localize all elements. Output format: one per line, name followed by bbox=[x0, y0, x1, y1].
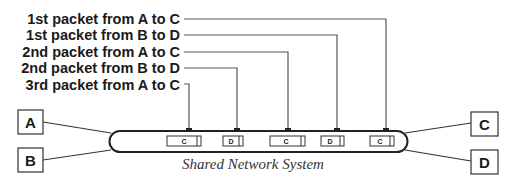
svg-text:C: C bbox=[181, 138, 186, 145]
label-3rd-a-to-c: 3rd packet from A to C bbox=[26, 77, 181, 93]
svg-text:C: C bbox=[283, 138, 288, 145]
shared-network-tube bbox=[110, 131, 408, 152]
node-d: D bbox=[471, 150, 498, 174]
leader-line-1st-b-to-d bbox=[184, 35, 337, 132]
leader-lines bbox=[184, 19, 386, 132]
svg-text:D: D bbox=[228, 138, 233, 145]
connector-a bbox=[43, 122, 111, 133]
packet-c-3: C bbox=[370, 136, 394, 146]
svg-text:C: C bbox=[479, 116, 490, 133]
svg-text:A: A bbox=[25, 114, 36, 131]
leader-line-2nd-a-to-c bbox=[184, 52, 288, 132]
svg-text:D: D bbox=[479, 154, 490, 171]
connector-c bbox=[405, 123, 471, 133]
packet-d-1: D bbox=[223, 136, 243, 146]
caption: Shared Network System bbox=[182, 156, 324, 172]
packet-c-1: C bbox=[167, 136, 201, 146]
node-c: C bbox=[471, 112, 498, 136]
connector-b bbox=[43, 150, 111, 160]
packet-d-2: D bbox=[321, 136, 344, 146]
label-1st-a-to-c: 1st packet from A to C bbox=[27, 11, 180, 27]
svg-text:C: C bbox=[377, 138, 382, 145]
shared-network-diagram: 1st packet from A to C 1st packet from B… bbox=[0, 0, 515, 186]
packet-c-2: C bbox=[270, 136, 305, 146]
label-1st-b-to-d: 1st packet from B to D bbox=[26, 27, 180, 43]
leader-line-3rd-a-to-c bbox=[184, 84, 189, 132]
label-2nd-b-to-d: 2nd packet from B to D bbox=[21, 60, 180, 76]
node-a: A bbox=[18, 110, 43, 134]
svg-text:B: B bbox=[25, 152, 36, 169]
leader-line-2nd-b-to-d bbox=[184, 68, 237, 132]
node-b: B bbox=[18, 148, 43, 172]
connector-d bbox=[405, 150, 471, 161]
svg-text:D: D bbox=[327, 138, 332, 145]
leader-line-1st-a-to-c bbox=[184, 19, 386, 132]
label-2nd-a-to-c: 2nd packet from A to C bbox=[22, 44, 180, 60]
